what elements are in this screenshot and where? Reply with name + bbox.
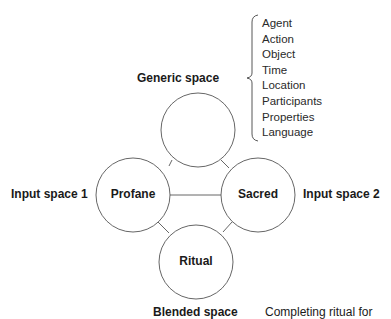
- blended-space-description: Completing ritual for: [265, 305, 372, 319]
- list-item: Location: [262, 78, 322, 94]
- sacred-node-label: Sacred: [221, 187, 295, 201]
- blended-space-label: Blended space: [153, 305, 238, 319]
- ritual-node-label: Ritual: [159, 254, 233, 268]
- list-item: Language: [262, 125, 322, 141]
- list-item: Properties: [262, 110, 322, 126]
- input-space-1-label: Input space 1: [11, 187, 88, 201]
- input-space-2-label: Input space 2: [303, 187, 380, 201]
- generic-space-elements-list: Agent Action Object Time Location Partic…: [262, 16, 322, 141]
- generic-space-circle: [161, 93, 235, 167]
- generic-space-label: Generic space: [137, 71, 219, 85]
- brace-icon: [247, 15, 258, 141]
- list-item: Participants: [262, 94, 322, 110]
- list-item: Action: [262, 32, 322, 48]
- connector-generic-sacred: [221, 160, 229, 168]
- list-item: Object: [262, 47, 322, 63]
- list-item: Time: [262, 63, 322, 79]
- connector-sacred-ritual: [223, 222, 232, 232]
- connector-generic-profane: [169, 160, 172, 166]
- connector-profane-ritual: [158, 222, 169, 233]
- list-item: Agent: [262, 16, 322, 32]
- profane-node-label: Profane: [96, 187, 170, 201]
